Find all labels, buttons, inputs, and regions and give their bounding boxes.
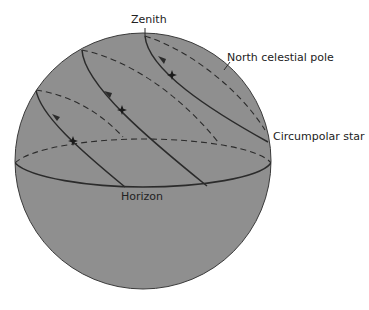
horizon-label: Horizon	[121, 191, 163, 202]
celestial-sphere-diagram	[0, 0, 369, 310]
zenith-label: Zenith	[131, 14, 167, 25]
circumpolar-star-label: Circumpolar star	[273, 131, 365, 142]
celestial-sphere	[15, 33, 271, 289]
north-celestial-pole-label: North celestial pole	[227, 52, 334, 63]
